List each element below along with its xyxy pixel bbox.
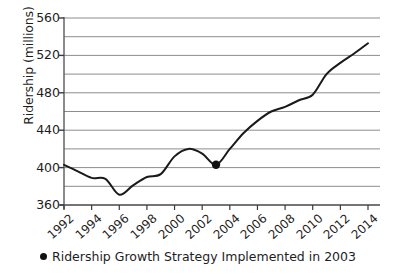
- plot-area: [0, 0, 396, 275]
- legend-marker-icon: [40, 253, 47, 260]
- legend-label: Ridership Growth Strategy Implemented in…: [52, 249, 356, 264]
- ridership-line-chart: Ridership (millions) 360400440480520560 …: [0, 0, 396, 275]
- data-line: [64, 43, 368, 195]
- annotation-marker[interactable]: [212, 161, 220, 169]
- legend: Ridership Growth Strategy Implemented in…: [0, 249, 396, 264]
